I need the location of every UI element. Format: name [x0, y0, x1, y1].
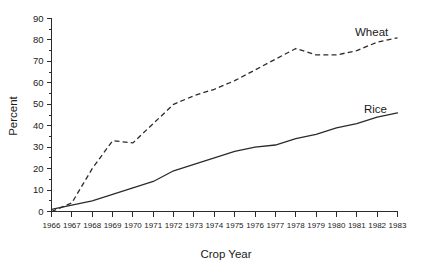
y-tick-label: 50 [33, 98, 44, 109]
chart-container: 0102030405060708090 19661967196819691970… [0, 0, 422, 264]
x-tick-label: 1967 [63, 221, 81, 230]
y-tick-label: 0 [38, 206, 43, 217]
x-tick-label: 1969 [104, 221, 122, 230]
y-tick-label: 90 [33, 13, 44, 24]
x-tick-label: 1975 [226, 221, 244, 230]
x-tick-label: 1978 [287, 221, 305, 230]
x-tick-label: 1983 [389, 221, 407, 230]
x-tick-label: 1971 [144, 221, 162, 230]
x-tick-label: 1982 [368, 221, 386, 230]
x-tick-label: 1979 [307, 221, 325, 230]
x-tick-label: 1972 [165, 221, 183, 230]
y-axis-title: Percent [7, 95, 19, 135]
x-axis-title: Crop Year [200, 248, 251, 260]
x-tick-label: 1968 [83, 221, 101, 230]
y-tick-label: 30 [33, 141, 44, 152]
x-tick-label: 1977 [266, 221, 284, 230]
series-label-wheat: Wheat [355, 26, 389, 38]
y-tick-label: 40 [33, 120, 44, 131]
y-tick-label: 20 [33, 163, 44, 174]
x-tick-label: 1981 [348, 221, 366, 230]
y-tick-label: 70 [33, 55, 44, 66]
x-tick-label: 1973 [185, 221, 203, 230]
y-tick-label: 10 [33, 184, 44, 195]
y-tick-label: 80 [33, 34, 44, 45]
x-tick-label: 1976 [246, 221, 264, 230]
series-label-rice: Rice [364, 103, 387, 115]
y-tick-label: 60 [33, 77, 44, 88]
x-tick-label: 1966 [43, 221, 61, 230]
x-tick-label: 1980 [328, 221, 346, 230]
line-chart: 0102030405060708090 19661967196819691970… [0, 0, 422, 264]
x-tick-label: 1970 [124, 221, 142, 230]
x-tick-label: 1974 [205, 221, 223, 230]
